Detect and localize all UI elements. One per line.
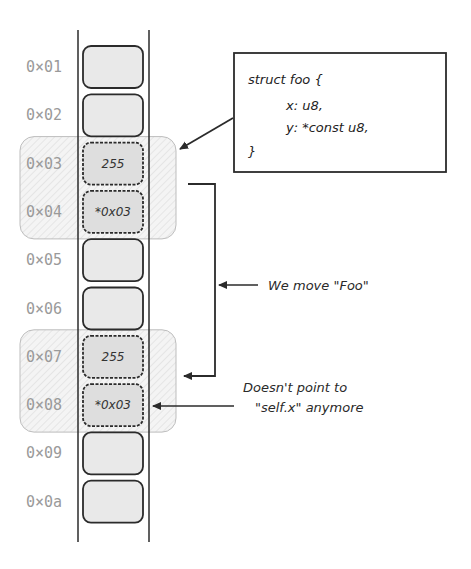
move-bracket-arrow [184,184,215,376]
memory-address-label: 0×0a [26,493,62,511]
memory-cell-box [83,432,143,474]
stale-pointer-label-line-1: Doesn't point to [243,380,347,395]
memory-cell-0x01: 0×01 [26,46,143,88]
memory-cell-0x09: 0×09 [26,432,143,474]
stale-pointer-label-line-2: "self.x" anymore [255,400,364,415]
memory-cell-box [83,94,143,136]
memory-cell-box [83,288,143,330]
struct-definition-box: struct foo { x: u8, y: *const u8, } [234,53,446,172]
memory-address-label: 0×06 [26,300,62,318]
memory-address-label: 0×03 [26,155,62,173]
struct-line-1: struct foo { [248,72,323,87]
memory-cell-value: 255 [102,157,125,171]
memory-address-label: 0×01 [26,58,62,76]
move-label: We move "Foo" [268,278,369,293]
memory-move-diagram: 0×010×022550×03*0x030×040×050×062550×07*… [0,0,471,569]
memory-cell-0x0a: 0×0a [26,481,143,523]
memory-address-label: 0×07 [26,348,62,366]
struct-line-3: y: *const u8, [285,120,369,135]
memory-cell-value: *0x03 [95,205,131,219]
memory-cell-box [83,239,143,281]
memory-address-label: 0×09 [26,444,62,462]
struct-line-4: } [248,144,256,159]
memory-address-label: 0×02 [26,106,62,124]
memory-cell-box [83,46,143,88]
struct-line-2: x: u8, [285,98,323,113]
memory-cell-0x05: 0×05 [26,239,143,281]
memory-cell-0x06: 0×06 [26,288,143,330]
memory-cell-0x02: 0×02 [26,94,143,136]
memory-address-label: 0×05 [26,251,62,269]
struct-to-memory-arrow [180,118,233,149]
memory-cell-box [83,481,143,523]
memory-address-label: 0×04 [26,203,62,221]
memory-cell-value: *0x03 [95,398,131,412]
memory-address-label: 0×08 [26,396,62,414]
memory-cell-value: 255 [102,350,125,364]
